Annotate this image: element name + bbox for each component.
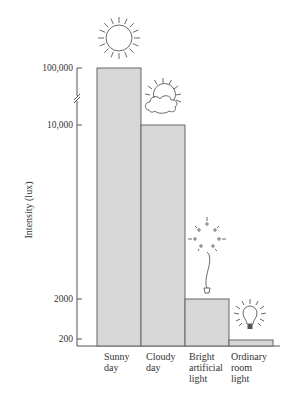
cat-cloudy-l1: Cloudy [146, 351, 175, 362]
bar-ordinary-room-light [229, 340, 273, 346]
tick-100000: 100,000 [42, 63, 73, 73]
sun-icon [98, 17, 140, 59]
tick-2000: 2000 [54, 294, 73, 304]
cat-sunny-l1: Sunny [104, 351, 130, 362]
sun-behind-cloud-icon [145, 78, 181, 113]
tick-200: 200 [59, 334, 74, 344]
bar-chart: 100,000 10,000 2000 200 Intensity (lux) [0, 0, 301, 404]
y-axis-title: Intensity (lux) [23, 182, 35, 239]
x-category-labels: Sunny day Cloudy day Bright artificial l… [104, 351, 267, 384]
bars [97, 68, 273, 346]
cat-bright-l1: Bright [189, 351, 215, 362]
bar-bright-artificial-light [185, 299, 229, 346]
cat-bright-l2: artificial [189, 362, 223, 373]
cat-sunny-l2: day [104, 362, 118, 373]
y-tick-labels: 100,000 10,000 2000 200 [42, 63, 73, 344]
bar-sunny-day [97, 68, 141, 346]
bar-cloudy-day [141, 125, 185, 346]
cat-bright-l3: light [189, 373, 208, 384]
spotlight-bulb-icon [188, 217, 226, 293]
cat-cloudy-l2: day [146, 362, 160, 373]
tick-10000: 10,000 [47, 120, 73, 130]
cat-ordinary-l3: light [231, 373, 250, 384]
light-bulb-icon [234, 299, 266, 329]
cat-ordinary-l1: Ordinary [231, 351, 267, 362]
cat-ordinary-l2: room [231, 362, 252, 373]
